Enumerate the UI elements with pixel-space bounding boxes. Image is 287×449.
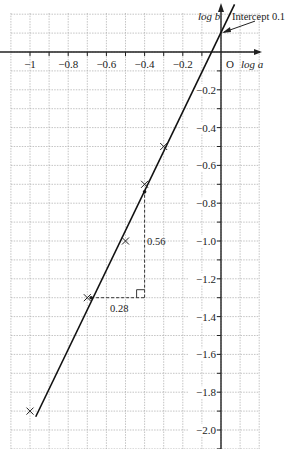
x-tick-label: −0.8 — [58, 58, 78, 70]
run-label: 0.28 — [110, 303, 128, 314]
x-tick-label: −0.6 — [96, 58, 116, 70]
y-tick-label: −2.0 — [196, 424, 216, 436]
y-tick-label: −1.0 — [196, 235, 216, 247]
x-tick-label: −0.4 — [135, 58, 155, 70]
x-tick-label: −0.2 — [173, 58, 193, 70]
x-axis-arrow-icon — [254, 49, 262, 55]
log-log-graph: −1−0.8−0.6−0.4−0.2−0.2−0.4−0.6−0.8−1.0−1… — [0, 0, 287, 449]
right-angle-marker — [137, 290, 145, 298]
intercept-label: Intercept 0.1 — [232, 11, 285, 22]
origin-label: O — [226, 58, 234, 70]
axes — [0, 3, 262, 449]
y-axis-label: log b — [198, 10, 221, 22]
rise-label: 0.56 — [147, 236, 165, 247]
x-axis-label: log a — [241, 58, 264, 70]
y-tick-label: −0.6 — [196, 159, 216, 171]
y-tick-label: −0.2 — [196, 84, 216, 96]
y-tick-label: −1.6 — [196, 348, 216, 360]
y-tick-label: −0.4 — [196, 122, 216, 134]
grid — [11, 13, 259, 449]
y-tick-label: −1.4 — [196, 311, 216, 323]
y-tick-label: −0.8 — [196, 197, 216, 209]
y-tick-label: −1.2 — [196, 273, 216, 285]
y-tick-label: −1.8 — [196, 386, 216, 398]
x-tick-label: −1 — [24, 58, 36, 70]
